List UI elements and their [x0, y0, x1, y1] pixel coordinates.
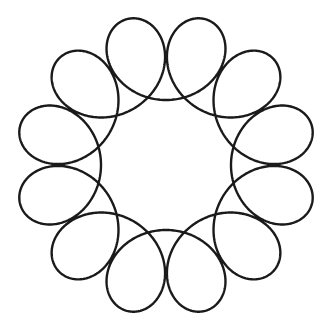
trochoid-figure — [0, 0, 332, 329]
trochoid-curve — [19, 18, 312, 311]
